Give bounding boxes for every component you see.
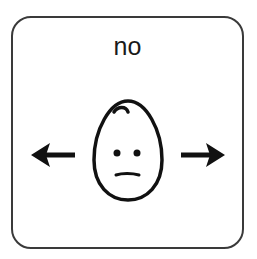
face-icon	[94, 101, 162, 200]
arrow-right-icon	[181, 143, 225, 167]
arrow-left-icon	[31, 143, 75, 167]
symbol-graphic	[0, 0, 257, 259]
